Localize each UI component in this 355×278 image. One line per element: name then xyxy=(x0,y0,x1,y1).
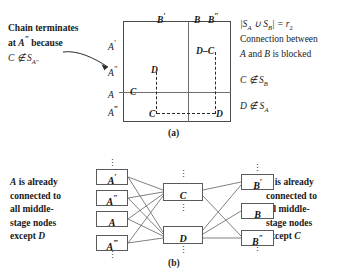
mark-D-dash-C: D–C xyxy=(196,45,214,58)
dots-right-top: ⋮ xyxy=(241,166,274,171)
node-B-doubleprime[interactable]: B″ xyxy=(241,230,274,246)
top-label-B: B xyxy=(194,11,200,27)
prime-mark: ′ xyxy=(260,178,262,187)
caption-panel-b: (b) xyxy=(168,258,180,268)
mark-C-bottom-left: C xyxy=(149,108,155,121)
prime-mark: ‴ xyxy=(113,239,117,248)
prime-mark: ″ xyxy=(214,12,218,21)
d-not-in-sa-line: D ∉ SA xyxy=(240,100,268,116)
connection-between-line: Connection between xyxy=(240,33,318,46)
prime-mark: ″ xyxy=(114,65,117,74)
right-desc-line5: except C xyxy=(266,230,350,244)
prime-mark: ′ xyxy=(163,12,165,21)
top-label-B-doubleprime: B″ xyxy=(208,11,218,27)
node-C[interactable]: C xyxy=(163,183,203,201)
left-desc-line4: stage nodes xyxy=(10,217,92,231)
left-desc-line1: A is already xyxy=(10,176,92,190)
chain-terminates-line1: Chain terminates xyxy=(8,22,78,34)
right-description-text: B is already connected to all middle- st… xyxy=(266,176,350,244)
column-rule-B xyxy=(188,22,189,122)
figure-root: Chain terminates at A″ because C ∉ SA″ B… xyxy=(0,0,355,278)
mark-C-row-A: C xyxy=(130,86,136,99)
mark-D-bottom-right: D xyxy=(216,108,223,121)
top-label-B-prime: B′ xyxy=(157,11,165,27)
c-not-in-sa-annotation: C ∉ SA″ xyxy=(8,52,39,68)
dots-middle-center: ⋮ xyxy=(163,206,203,211)
prime-mark: ′ xyxy=(114,173,116,182)
chain-terminates-annotation: Chain terminates at A″ because xyxy=(8,22,78,49)
right-desc-line4: stage nodes xyxy=(266,217,350,231)
left-desc-line3: all middle- xyxy=(10,203,92,217)
node-A-tripleprime[interactable]: A‴ xyxy=(96,235,128,251)
left-label-A-prime: A′ xyxy=(108,38,115,54)
left-label-A-doubleprime: A″ xyxy=(108,64,117,80)
left-label-A-tripleprime: A‴ xyxy=(108,104,117,120)
c-not-in-sb-line: C ∉ SB xyxy=(240,74,268,90)
prime-mark: ‴ xyxy=(114,105,117,114)
c-not-in-sa-main: C ∉ S xyxy=(8,53,32,63)
right-desc-line3: all middle- xyxy=(266,203,350,217)
dots-middle-bottom: ⋮ xyxy=(163,248,203,253)
dots-left-bottom: ⋮ xyxy=(96,253,128,258)
left-description-text: A is already connected to all middle- st… xyxy=(10,176,92,244)
node-A-prime[interactable]: A′ xyxy=(96,169,128,185)
right-desc-line2: connected to xyxy=(266,190,350,204)
chain-terminates-line2: at A″ because xyxy=(8,34,78,49)
prime-mark: ″ xyxy=(259,234,263,243)
dashed-line-D-to-C-left xyxy=(156,72,157,114)
c-not-in-sa-subscript: A″ xyxy=(32,58,39,65)
node-D[interactable]: D xyxy=(163,226,203,244)
left-desc-line2: connected to xyxy=(10,190,92,204)
dots-left-top: ⋮ xyxy=(96,161,128,166)
node-A[interactable]: A xyxy=(96,211,128,227)
prime-mark: ′ xyxy=(114,39,115,48)
mark-D-middle-left: D xyxy=(151,64,158,77)
left-desc-line5: except D xyxy=(10,230,92,244)
prime-mark: ″ xyxy=(113,194,117,203)
dashed-line-C-to-D-right xyxy=(215,52,216,114)
dots-middle-top: ⋮ xyxy=(163,172,203,177)
node-B[interactable]: B xyxy=(241,203,274,219)
a-and-b-blocked-line: A and B is blocked xyxy=(240,48,311,61)
node-A-doubleprime[interactable]: A″ xyxy=(96,190,128,206)
node-B-prime[interactable]: B′ xyxy=(241,174,274,190)
caption-panel-a: (a) xyxy=(168,128,179,138)
dashed-line-C-to-D-bottom xyxy=(157,113,215,114)
left-label-A: A xyxy=(108,86,114,102)
right-desc-line1: B is already xyxy=(266,176,350,190)
set-union-cardinality-line: |SA ∪ SB| = r2 xyxy=(240,18,293,34)
